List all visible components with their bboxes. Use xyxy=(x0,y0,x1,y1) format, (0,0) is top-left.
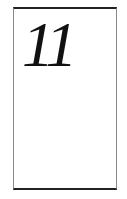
card-number: 11 xyxy=(22,13,73,77)
numbered-card: 11 xyxy=(13,7,117,190)
